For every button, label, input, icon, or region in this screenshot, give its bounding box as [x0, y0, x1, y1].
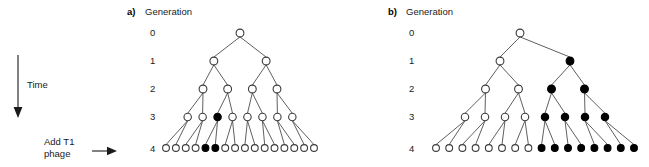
panel-b-edges — [436, 37, 634, 145]
wildtype-cell-node — [224, 85, 232, 93]
wildtype-cell-node — [472, 145, 479, 152]
panel-b-gen-tick-2: 2 — [409, 83, 414, 94]
wildtype-cell-node — [482, 85, 490, 93]
lineage-edge — [515, 121, 525, 145]
lineage-edge — [545, 121, 555, 145]
lineage-edge — [585, 121, 608, 145]
wildtype-cell-node — [516, 29, 524, 37]
panel-b-gen-tick-0: 0 — [409, 27, 414, 38]
time-arrow-head — [14, 107, 23, 118]
lineage-edge — [520, 37, 570, 57]
mutant-cell-node — [565, 145, 572, 152]
panel-a-generation-ticks: 0 1 2 3 4 — [150, 27, 155, 154]
panel-b-generation-header: Generation — [406, 6, 453, 17]
mutant-cell-node — [541, 113, 548, 120]
lineage-edge — [552, 93, 566, 113]
lineage-edge — [166, 121, 188, 145]
wildtype-cell-node — [273, 85, 281, 93]
wildtype-cell-node — [172, 145, 179, 152]
mutant-cell-node — [581, 113, 588, 120]
lineage-edge — [247, 121, 254, 145]
lineage-edge — [605, 121, 634, 145]
wildtype-cell-node — [210, 57, 218, 65]
lineage-edge — [545, 93, 552, 113]
lineage-edge — [585, 121, 594, 145]
panel-b-gen-tick-4: 4 — [409, 143, 414, 154]
wildtype-cell-node — [481, 113, 488, 120]
lineage-edge — [462, 121, 485, 145]
lineage-edge — [176, 121, 188, 145]
lineage-edge — [292, 121, 304, 145]
panel-a-generation-header: Generation — [145, 6, 192, 17]
lineage-edge — [228, 93, 233, 113]
lineage-edge — [585, 93, 606, 113]
mutant-cell-node — [591, 145, 598, 152]
mutant-cell-node — [604, 145, 611, 152]
lineage-edge — [525, 121, 528, 145]
lineage-edge — [218, 93, 228, 113]
lineage-edge — [225, 121, 232, 145]
wildtype-cell-node — [289, 113, 296, 120]
lineage-edge — [252, 93, 262, 113]
panel-a-gen-tick-1: 1 — [150, 55, 155, 66]
wildtype-cell-node — [515, 85, 523, 93]
mutant-cell-node — [202, 145, 209, 152]
panel-b-generation-ticks: 0 1 2 3 4 — [409, 27, 414, 154]
panel-a-gen-tick-4: 4 — [150, 143, 155, 154]
lineage-edge — [500, 37, 520, 57]
wildtype-cell-node — [259, 113, 266, 120]
lineage-edge — [186, 121, 203, 145]
lineage-edge — [505, 93, 519, 113]
wildtype-cell-node — [271, 145, 278, 152]
mutant-cell-node — [601, 113, 608, 120]
wildtype-cell-node — [163, 145, 170, 152]
panel-a-gen-tick-3: 3 — [150, 111, 155, 122]
panel-a-gen-tick-2: 2 — [150, 83, 155, 94]
wildtype-cell-node — [311, 145, 318, 152]
wildtype-cell-node — [242, 145, 249, 152]
mutant-cell-node — [631, 145, 638, 152]
lineage-edge — [277, 93, 292, 113]
lineage-edge — [519, 93, 526, 113]
lineage-edge — [277, 121, 294, 145]
wildtype-cell-node — [244, 113, 251, 120]
wildtype-cell-node — [236, 29, 244, 37]
wildtype-cell-node — [182, 145, 189, 152]
mutant-cell-node — [214, 113, 221, 120]
lineage-edge — [449, 121, 465, 145]
lineage-edge — [188, 93, 203, 113]
wildtype-cell-node — [459, 145, 466, 152]
mutant-cell-node — [548, 85, 556, 93]
lineage-edge — [252, 65, 266, 85]
time-axis: Time — [14, 55, 48, 118]
wildtype-cell-node — [262, 57, 270, 65]
panel-b: b) Generation 0 1 2 3 4 — [388, 6, 637, 154]
lineage-edge — [570, 65, 585, 85]
lineage-edge — [500, 65, 519, 85]
lineage-edge — [605, 121, 621, 145]
wildtype-cell-node — [433, 145, 440, 152]
wildtype-cell-node — [461, 113, 468, 120]
lineage-edge — [240, 37, 266, 57]
lineage-edge — [486, 65, 501, 85]
lineage-edge — [214, 37, 240, 57]
lineage-edge — [233, 121, 236, 145]
wildtype-cell-node — [446, 145, 453, 152]
lineage-edge — [292, 121, 314, 145]
mutant-cell-node — [538, 145, 545, 152]
lineage-edge — [266, 65, 277, 85]
wildtype-cell-node — [261, 145, 268, 152]
wildtype-cell-node — [501, 113, 508, 120]
wildtype-cell-node — [192, 145, 199, 152]
wildtype-cell-node — [229, 113, 236, 120]
lineage-edge — [542, 121, 545, 145]
lineage-figure: Time Add T1 phage a) Generation 0 1 2 3 … — [0, 0, 649, 167]
wildtype-cell-node — [485, 145, 492, 152]
treatment-label-line1: Add T1 — [44, 136, 74, 147]
panel-b-gen-tick-3: 3 — [409, 111, 414, 122]
lineage-edge — [245, 121, 248, 145]
panel-a-nodes — [163, 29, 318, 151]
wildtype-cell-node — [251, 145, 258, 152]
wildtype-cell-node — [199, 113, 206, 120]
panel-a: a) Generation 0 1 2 3 4 — [127, 6, 317, 154]
